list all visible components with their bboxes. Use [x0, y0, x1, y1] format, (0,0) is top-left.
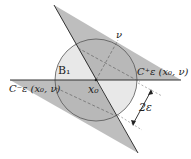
width-label: 2ε [139, 102, 152, 113]
cone-diagram: B₁ x₀ ν C⁺ε (x₀, ν) C⁻ε (x₀, ν) 2ε [0, 0, 191, 159]
center-label: x₀ [88, 84, 99, 95]
ball-label: B₁ [58, 65, 71, 76]
normal-label: ν [116, 30, 122, 40]
cone-minus-label: C⁻ε (x₀, ν) [9, 84, 60, 94]
diagram-canvas [0, 0, 191, 159]
arrow-head-down [131, 120, 136, 126]
center-point [95, 79, 98, 82]
cone-plus-label: C⁺ε (x₀, ν) [137, 67, 188, 77]
arrow-head-up [148, 89, 153, 95]
